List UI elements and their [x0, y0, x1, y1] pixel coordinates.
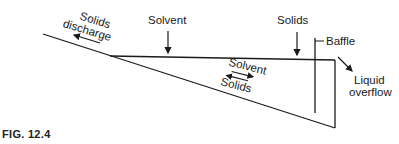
figure-caption: FIG. 12.4	[2, 128, 51, 140]
counterflow-group: Solvent Solids	[220, 55, 269, 97]
solvent-inlet-label: Solvent	[148, 14, 187, 26]
liquid-overflow-label-2: overflow	[349, 86, 393, 98]
liquid-surface-line	[110, 56, 335, 60]
sloped-bottom-line	[43, 34, 335, 128]
solids-discharge-group: Solids discharge	[62, 6, 117, 44]
vessel-outline	[43, 34, 335, 128]
extractor-diagram: Baffle Solvent Solids Solids discharge L…	[0, 0, 399, 144]
solids-inlet-label: Solids	[277, 14, 309, 26]
liquid-overflow-label-1: Liquid	[354, 74, 385, 86]
baffle-label: Baffle	[326, 35, 355, 47]
liquid-overflow-arrow-icon	[338, 57, 352, 71]
